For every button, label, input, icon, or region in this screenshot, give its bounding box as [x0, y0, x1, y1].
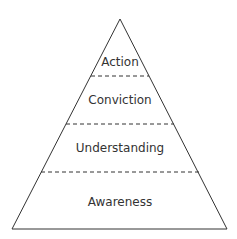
level-label-conviction: Conviction [88, 93, 151, 107]
level-label-understanding: Understanding [76, 141, 164, 155]
level-label-action: Action [101, 55, 139, 69]
pyramid-diagram: Action Conviction Understanding Awarenes… [0, 0, 237, 239]
level-label-awareness: Awareness [88, 195, 152, 209]
